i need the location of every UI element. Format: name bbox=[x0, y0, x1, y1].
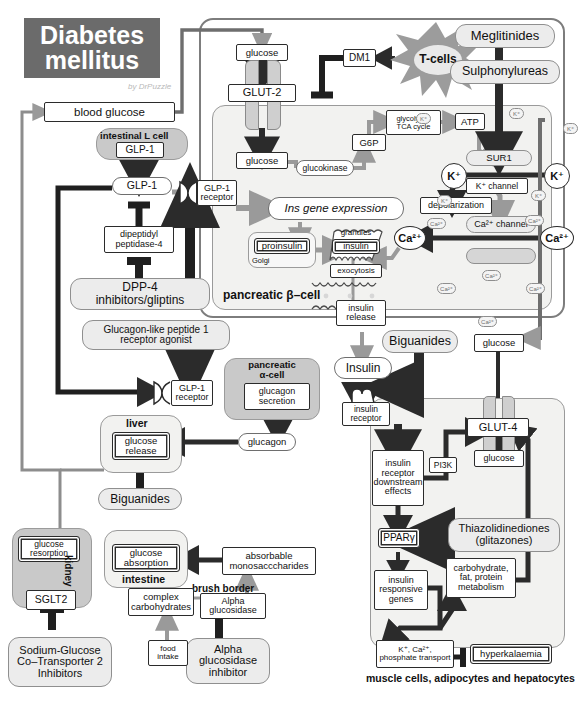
glucose-muscle-box: glucose bbox=[474, 450, 524, 467]
complex-carbohydrates-box: complex carbohydrates bbox=[128, 588, 194, 616]
ca-ion-faint-2: Ca²⁺ bbox=[525, 215, 544, 226]
k-ca-phosphate-transport-box: K⁺, Ca²⁺, phosphate transport bbox=[376, 640, 454, 668]
ca-ion-faint-3: Ca²⁺ bbox=[437, 283, 456, 294]
insulin-node: Insulin bbox=[334, 357, 392, 379]
glucose-extracellular-box: glucose bbox=[236, 44, 288, 61]
depolarization-box: depolarization bbox=[420, 197, 492, 214]
glut2-label-box: GLUT-2 bbox=[228, 84, 296, 102]
k-ion-faint-4: K⁺ bbox=[437, 195, 452, 206]
glp1-receptor-alpha-box: GLP-1 receptor bbox=[171, 380, 213, 406]
intestinal-l-cell-label: intestinal L cell bbox=[100, 130, 168, 141]
k-ion-faint-1: K⁺ bbox=[416, 113, 431, 124]
ins-gene-expression-label: Ins gene expression bbox=[285, 202, 388, 214]
ins-gene-expression-node: Ins gene expression bbox=[268, 197, 404, 220]
glp1-free-node: GLP-1 bbox=[112, 177, 172, 195]
atp-box: ATP bbox=[455, 113, 485, 130]
insulin-granule-node: insulin bbox=[332, 239, 380, 254]
glucokinase-node: glucokinase bbox=[296, 160, 354, 176]
insulin-responsive-genes-box: insulin responsive genes bbox=[374, 570, 428, 610]
glucose-absorption-node: glucose absorption bbox=[112, 544, 180, 572]
g6p-box: G6P bbox=[352, 134, 386, 151]
ca-ion-faint-4: Ca²⁺ bbox=[526, 283, 545, 294]
food-intake-box: food intake bbox=[148, 640, 188, 666]
insulin-release-box: insulin release bbox=[336, 300, 386, 326]
dpp4-inhibitors-drug[interactable]: DPP-4 inhibitors/gliptins bbox=[70, 278, 210, 310]
k-ion-right: K⁺ bbox=[544, 163, 570, 189]
exocytosis-box: exocytosis bbox=[330, 264, 382, 278]
ppar-gamma-node: PPARγ bbox=[378, 528, 420, 548]
alpha-glucosidase-box: Alpha glucosidase bbox=[200, 593, 266, 619]
glucagon-secretion-box: glucagon secretion bbox=[244, 383, 310, 410]
ca-channel-pore bbox=[466, 248, 536, 264]
dm1-box: DM1 bbox=[343, 49, 376, 67]
meglitinides-drug[interactable]: Meglitinides bbox=[455, 24, 555, 48]
glucose-peripheral-box: glucose bbox=[474, 334, 524, 352]
ca-ion-right: Ca²⁺ bbox=[540, 226, 574, 250]
glycolysis-tca-box: glycolysis, TCA cycle bbox=[386, 110, 441, 135]
k-ion-faint-5: K⁺ bbox=[531, 190, 546, 201]
sglt2-inhibitors-drug[interactable]: Sodium-Glucose Co–Transporter 2 Inhibito… bbox=[8, 637, 112, 687]
proinsulin-node: proinsulin bbox=[254, 238, 310, 254]
sur1-node: SUR1 bbox=[466, 150, 532, 166]
glp1-in-cell-box: GLP-1 bbox=[116, 142, 164, 158]
glut4-label-box: GLUT-4 bbox=[467, 418, 529, 437]
diabetes-mellitus-diagram: Diabetes mellitus by DrPuzzle blood gluc… bbox=[0, 0, 582, 708]
glp1-agonist-drug[interactable]: Glucagon-like peptide 1 receptor agonist bbox=[82, 320, 230, 350]
insulin-receptor-box: insulin receptor bbox=[342, 402, 390, 426]
title-line-1: Diabetes bbox=[40, 23, 144, 48]
muscle-cells-caption: muscle cells, adipocytes and hepatocytes bbox=[366, 672, 575, 684]
liver-label: liver bbox=[126, 417, 148, 429]
k-ion-left: K⁺ bbox=[441, 163, 467, 189]
page-title: Diabetes mellitus bbox=[24, 18, 160, 78]
pi3k-box: PI3K bbox=[429, 457, 457, 473]
author-signature: by DrPuzzle bbox=[128, 82, 171, 91]
k-ion-faint-3: K⁺ bbox=[563, 123, 578, 134]
golgi-label: Golgi bbox=[252, 255, 286, 266]
sulphonylureas-drug[interactable]: Sulphonylureas bbox=[450, 60, 560, 84]
pancreatic-beta-cell-label: pancreatic β–cell bbox=[223, 288, 320, 302]
glucose-intracellular-box: glucose bbox=[236, 152, 288, 169]
insulin-receptor-downstream-box: insulin receptor downstream effects bbox=[372, 450, 424, 506]
hyperkalaemia-node: hyperkalaemia bbox=[470, 644, 552, 664]
ca-ion-faint-6: Ca²⁺ bbox=[482, 270, 501, 281]
thiazolidinediones-drug[interactable]: Thiazolidinediones (glitazones) bbox=[448, 518, 560, 552]
kidney-label: kidney bbox=[63, 555, 74, 587]
carbohydrate-metabolism-box: carbohydrate, fat, protein metabolism bbox=[446, 558, 516, 598]
sglt2-box: SGLT2 bbox=[26, 590, 76, 610]
glp1-receptor-beta-box: GLP-1 receptor bbox=[197, 180, 237, 206]
granules-label: granules bbox=[330, 228, 382, 238]
ca-ion-faint-1: Ca²⁺ bbox=[427, 218, 446, 229]
glucagon-node: glucagon bbox=[238, 433, 296, 451]
biguanides-muscle-drug[interactable]: Biguanides bbox=[382, 330, 458, 353]
glucose-release-node: glucose release bbox=[112, 432, 170, 460]
ca-ion-left: Ca²⁺ bbox=[394, 226, 426, 250]
title-line-2: mellitus bbox=[45, 48, 139, 73]
biguanides-liver-drug[interactable]: Biguanides bbox=[98, 488, 182, 510]
pancreatic-alpha-cell-label: pancreatic α-cell bbox=[236, 360, 308, 380]
ca-ion-faint-5: Ca²⁺ bbox=[478, 316, 497, 327]
absorbable-monosaccharides-box: absorbable monosacccharides bbox=[222, 547, 316, 575]
intestine-label: intestine bbox=[122, 573, 165, 585]
alpha-glucosidase-inhibitor-drug[interactable]: Alpha glucosidase inhibitor bbox=[186, 638, 270, 684]
k-ion-faint-2: K⁺ bbox=[509, 108, 524, 119]
blood-glucose-box: blood glucose bbox=[44, 102, 175, 122]
k-channel-box: K⁺ channel bbox=[466, 178, 528, 194]
dpp4-enzyme-box: dipeptidyl peptidase-4 bbox=[104, 226, 174, 253]
